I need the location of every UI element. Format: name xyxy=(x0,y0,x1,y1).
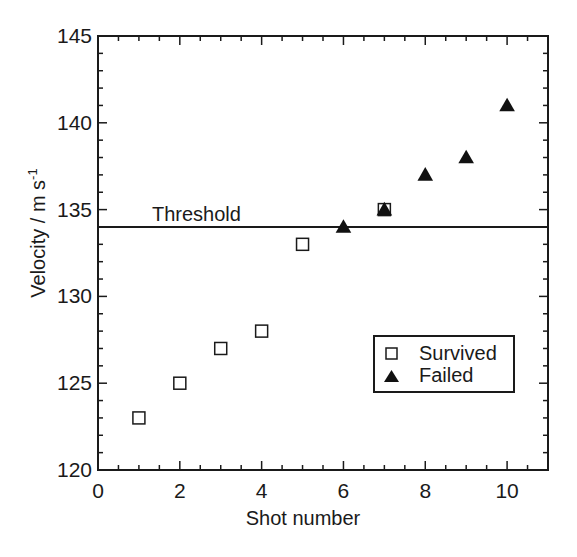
survived-point xyxy=(215,342,227,354)
x-tick-label: 4 xyxy=(256,479,268,502)
y-tick-label: 130 xyxy=(57,284,92,307)
tick-labels: 0246810120125130135140145 xyxy=(57,24,519,502)
y-axis-label-superscript: -1 xyxy=(25,168,40,180)
x-axis-label: Shot number xyxy=(246,507,361,529)
failed-point xyxy=(499,98,515,112)
plot-frame xyxy=(98,36,548,470)
failed-point xyxy=(458,150,474,164)
survived-point xyxy=(174,377,186,389)
failed-point xyxy=(417,167,433,181)
survived-point xyxy=(133,412,145,424)
legend: Survived Failed xyxy=(374,336,514,392)
survived-point xyxy=(256,325,268,337)
legend-item-failed: Failed xyxy=(419,364,473,386)
x-tick-label: 10 xyxy=(495,479,518,502)
y-tick-label: 125 xyxy=(57,371,92,394)
y-axis-label: Velocity / m s-1 xyxy=(25,168,49,297)
scatter-chart: 0246810120125130135140145 Threshold Shot… xyxy=(0,0,577,557)
y-axis-label-main: Velocity / m s xyxy=(27,180,49,298)
y-tick-label: 120 xyxy=(57,458,92,481)
x-tick-label: 8 xyxy=(419,479,431,502)
survived-point xyxy=(297,238,309,250)
x-tick-label: 2 xyxy=(174,479,186,502)
y-tick-label: 140 xyxy=(57,111,92,134)
legend-item-survived: Survived xyxy=(419,342,497,364)
y-tick-label: 145 xyxy=(57,24,92,47)
x-tick-label: 6 xyxy=(338,479,350,502)
threshold-label: Threshold xyxy=(152,203,241,225)
axis-ticks xyxy=(98,36,548,470)
x-tick-label: 0 xyxy=(92,479,104,502)
y-tick-label: 135 xyxy=(57,198,92,221)
